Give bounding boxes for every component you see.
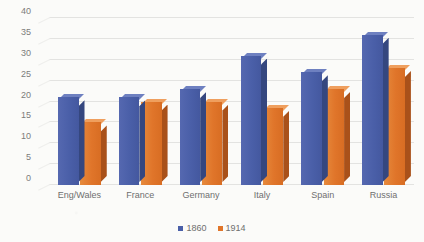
bar-1860-eng-wales[interactable] (58, 97, 78, 185)
bar-side-face (200, 92, 206, 182)
legend-label: 1860 (186, 224, 206, 233)
bar-front-face (119, 97, 139, 185)
bar-side-face (139, 100, 145, 182)
bar-side-face (283, 111, 289, 182)
bar-front-face (180, 89, 200, 185)
bar-group (232, 18, 293, 185)
bar-front-face (58, 97, 78, 185)
x-axis-label: France (126, 190, 154, 200)
bar-side-face (79, 100, 85, 182)
legend-swatch-icon (178, 226, 183, 231)
bar-1860-italy[interactable] (241, 56, 261, 185)
legend-item[interactable]: 1860 (178, 224, 206, 233)
bar-chart: 0510152025303540 Eng/WalesFranceGermanyI… (0, 0, 424, 242)
bar-front-face (241, 56, 261, 185)
bar-group (171, 18, 232, 185)
y-axis-tick-label: 0 (26, 174, 31, 183)
legend: 1860 1914 (0, 224, 424, 233)
y-axis-tick-label: 30 (21, 48, 31, 57)
y-axis-tick-label: 35 (21, 27, 31, 36)
bar-front-face (362, 35, 382, 185)
bar-side-face (261, 59, 267, 182)
bar-1860-spain[interactable] (301, 72, 321, 185)
legend-item[interactable]: 1914 (218, 224, 246, 233)
legend-label: 1914 (226, 224, 246, 233)
x-axis-label: Russia (370, 190, 398, 200)
bar-1860-france[interactable] (119, 97, 139, 185)
chart-wall (49, 18, 414, 185)
x-axis-label: Eng/Wales (58, 190, 101, 200)
gridline-depth-edge (38, 184, 50, 191)
bar-side-face (101, 125, 107, 182)
x-axis-label: Italy (254, 190, 271, 200)
bar-group (49, 18, 110, 185)
plot-area: 0510152025303540 (37, 18, 414, 185)
y-axis-tick-label: 25 (21, 69, 31, 78)
y-axis-tick-label: 40 (21, 7, 31, 16)
legend-swatch-icon (218, 226, 223, 231)
bar-side-face (322, 75, 328, 182)
bar-group (353, 18, 414, 185)
bar-side-face (222, 105, 228, 183)
bar-front-face (301, 72, 321, 185)
x-axis-label: Spain (311, 190, 334, 200)
y-axis-tick-label: 20 (21, 90, 31, 99)
bar-group (292, 18, 353, 185)
bar-side-face (162, 105, 168, 183)
bar-group (110, 18, 171, 185)
y-axis-tick-label: 15 (21, 111, 31, 120)
bar-side-face (383, 38, 389, 182)
bar-side-face (344, 92, 350, 182)
bar-1860-russia[interactable] (362, 35, 382, 185)
y-axis-tick-label: 5 (26, 153, 31, 162)
bar-side-face (405, 71, 411, 182)
bar-1860-germany[interactable] (180, 89, 200, 185)
x-axis-label: Germany (183, 190, 220, 200)
y-axis-tick-label: 10 (21, 132, 31, 141)
